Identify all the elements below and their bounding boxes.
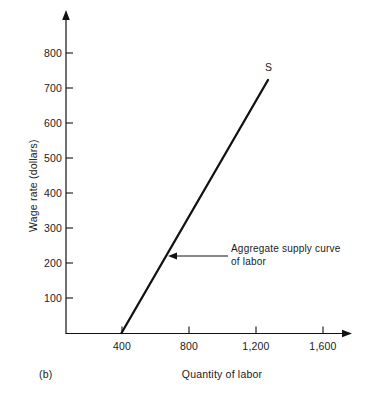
y-tick-label-100: 100: [28, 292, 62, 304]
y-axis-up-arrow-icon: [62, 10, 70, 20]
x-axis-right-arrow-icon: [342, 330, 352, 338]
panel-label: (b): [39, 368, 52, 380]
y-tick-label-200: 200: [28, 257, 62, 269]
x-tick-label-1600: 1,600: [300, 340, 346, 352]
supply-curve-line: [122, 80, 269, 333]
x-tick-label-400: 400: [99, 340, 145, 352]
x-tick-label-1200: 1,200: [233, 340, 279, 352]
annotation-line-1: Aggregate supply curve: [231, 242, 340, 255]
annotation-line-2: of labor: [231, 255, 340, 268]
figure-panel-b: 800 700 600 500 400 300 200 100 400 800 …: [0, 0, 369, 395]
x-tick-label-800: 800: [166, 340, 212, 352]
y-tick-label-600: 600: [28, 117, 62, 129]
y-axis-title: Wage rate (dollars): [27, 139, 39, 232]
y-tick-label-800: 800: [28, 47, 62, 59]
x-axis-title: Quantity of labor: [163, 368, 281, 380]
y-tick-marks: [66, 53, 73, 298]
supply-curve-annotation: Aggregate supply curve of labor: [231, 242, 340, 268]
callout-arrow: [168, 253, 228, 260]
x-tick-marks: [122, 327, 323, 334]
y-tick-label-700: 700: [28, 82, 62, 94]
left-arrow-icon: [168, 253, 177, 260]
supply-curve-label: S: [265, 61, 272, 73]
